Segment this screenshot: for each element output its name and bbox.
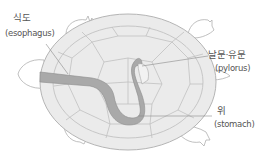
label-esophagus-ko: 식도	[13, 12, 30, 23]
label-pylorus-en: (pylorus)	[215, 63, 250, 74]
turtle-illustration	[0, 0, 259, 159]
label-esophagus-en: (esophagus)	[5, 28, 54, 39]
label-stomach-ko: 위	[217, 105, 226, 116]
label-pylorus-ko: 날문·유문	[208, 49, 246, 60]
label-stomach-en: (stomach)	[214, 119, 254, 130]
turtle-digestive-diagram: 식도 (esophagus) 날문·유문 (pylorus) 위 (stomac…	[0, 0, 259, 159]
